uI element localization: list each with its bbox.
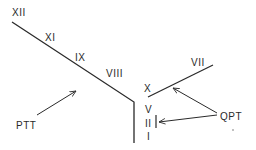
qpt-dot [232, 129, 233, 130]
label-ptt: PTT [16, 121, 36, 131]
label-xii: XII [12, 8, 26, 18]
diagram-canvas: XII XI IX VIII PTT X VII V II I QPT [0, 0, 256, 150]
qpt-arrow-upper [173, 88, 217, 113]
label-xi: XI [45, 33, 55, 43]
label-vii: VII [191, 58, 205, 68]
diagram-lines [0, 0, 256, 150]
label-x: X [144, 84, 151, 94]
label-qpt: QPT [220, 112, 242, 122]
qpt-arrow-lower [159, 115, 217, 122]
label-viii: VIII [106, 69, 123, 79]
label-ii: II [145, 119, 152, 129]
label-v: V [145, 105, 152, 115]
ptt-arrow [37, 91, 76, 115]
label-ix: IX [75, 53, 85, 63]
label-i: I [147, 132, 150, 142]
